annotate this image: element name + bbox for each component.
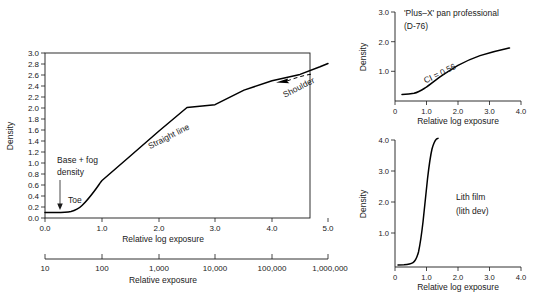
secondary-xtick-label: 100,000 <box>258 264 287 273</box>
plusx-ytick-label: 3.0 <box>378 8 389 17</box>
lith-xtick-label: 0 <box>393 273 397 282</box>
plusx-xtick-label: 4.0 <box>516 107 527 116</box>
lith-film-chart: 4.0 3.0 2.0 1.0 Density 0 1.0 2.0 3.0 4.… <box>358 136 526 292</box>
plusx-ytick-label: 2.0 <box>378 38 389 47</box>
main-ytick-label: 0.0 <box>28 214 40 223</box>
plusx-xtick-label: 2.0 <box>453 107 464 116</box>
main-ytick-label: 2.6 <box>28 71 40 80</box>
main-ytick-label: 2.8 <box>28 60 40 69</box>
plusx-y-axis-title: Density <box>358 42 368 71</box>
plusx-y-ticks <box>391 12 395 71</box>
main-xtick-label: 0.0 <box>39 224 51 233</box>
plusx-y-tick-labels: 3.0 2.0 1.0 <box>378 8 389 76</box>
main-x-axis-title: Relative log exposure <box>122 234 204 244</box>
lith-xtick-label: 3.0 <box>484 273 495 282</box>
lith-ytick-label: 3.0 <box>378 167 389 176</box>
lith-y-tick-labels: 4.0 3.0 2.0 1.0 <box>378 136 389 238</box>
main-ytick-label: 0.6 <box>28 181 40 190</box>
plusx-title: 'Plus–X' pan professional <box>404 8 499 18</box>
secondary-xtick-label: 10,000 <box>203 264 228 273</box>
annotation-shoulder: Shoulder <box>281 75 316 99</box>
lith-title: Lith film <box>456 192 485 202</box>
main-chart: 3.0 2.8 2.6 2.4 2.2 2.0 1.8 1.6 1.4 1.2 … <box>5 49 348 285</box>
secondary-xtick-label: 1,000 <box>149 264 170 273</box>
lith-ytick-label: 2.0 <box>378 198 389 207</box>
plusx-annotation-ci: CI = 0.56 <box>422 61 458 85</box>
main-ytick-label: 2.2 <box>28 93 40 102</box>
main-ytick-label: 0.2 <box>28 203 40 212</box>
main-xtick-label: 3.0 <box>209 224 221 233</box>
main-ytick-label: 0.8 <box>28 170 40 179</box>
plusx-xtick-label: 3.0 <box>484 107 495 116</box>
main-ytick-label: 1.6 <box>28 126 40 135</box>
secondary-xtick-label: 1,000,000 <box>312 264 348 273</box>
plusx-curve <box>402 48 510 95</box>
lith-xtick-label: 4.0 <box>516 273 527 282</box>
main-ytick-label: 3.0 <box>28 49 40 58</box>
plusx-xtick-label: 1.0 <box>421 107 432 116</box>
main-xtick-label: 1.0 <box>96 224 108 233</box>
main-x-ticks <box>45 218 328 222</box>
main-ytick-label: 2.0 <box>28 104 40 113</box>
lith-x-tick-labels: 0 1.0 2.0 3.0 4.0 <box>393 273 526 282</box>
lith-ytick-label: 1.0 <box>378 229 389 238</box>
main-ytick-label: 1.8 <box>28 115 40 124</box>
main-xtick-label: 4.0 <box>266 224 278 233</box>
lith-y-ticks <box>391 140 395 233</box>
main-ytick-label: 1.0 <box>28 159 40 168</box>
annotation-toe: Toe <box>68 195 82 205</box>
lith-x-ticks <box>395 267 521 271</box>
main-ytick-label: 1.2 <box>28 148 40 157</box>
main-xtick-label: 2.0 <box>153 224 165 233</box>
main-x-tick-labels: 0.0 1.0 2.0 3.0 4.0 5.0 <box>39 224 334 233</box>
plusx-x-tick-labels: 0 1.0 2.0 3.0 4.0 <box>393 107 526 116</box>
annotation-base-fog-density: density <box>57 167 85 177</box>
lith-y-axis-title: Density <box>358 189 368 218</box>
main-xtick-label: 5.0 <box>322 224 334 233</box>
lith-xtick-label: 1.0 <box>421 273 432 282</box>
secondary-xtick-label: 10 <box>41 264 50 273</box>
plusx-x-ticks <box>395 101 521 105</box>
figure-canvas: 3.0 2.8 2.6 2.4 2.2 2.0 1.8 1.6 1.4 1.2 … <box>0 0 541 298</box>
main-secondary-axis: 10 100 1,000 10,000 100,000 1,000,000 Re… <box>41 254 349 285</box>
lith-x-axis-title: Relative log exposure <box>417 282 499 292</box>
lith-ytick-label: 4.0 <box>378 136 389 145</box>
lith-subtitle: (lith dev) <box>456 206 489 216</box>
plus-x-chart: 3.0 2.0 1.0 Density 0 1.0 2.0 3.0 4.0 Re… <box>358 8 526 126</box>
main-y-tick-labels: 3.0 2.8 2.6 2.4 2.2 2.0 1.8 1.6 1.4 1.2 … <box>28 49 40 223</box>
plusx-x-axis-title: Relative log exposure <box>417 116 499 126</box>
characteristic-curves-figure: 3.0 2.8 2.6 2.4 2.2 2.0 1.8 1.6 1.4 1.2 … <box>0 0 541 298</box>
lith-curve <box>398 138 438 265</box>
main-ytick-label: 2.4 <box>28 82 40 91</box>
main-ytick-label: 0.4 <box>28 192 40 201</box>
secondary-xtick-label: 100 <box>95 264 109 273</box>
base-fog-arrowhead <box>57 204 63 211</box>
main-characteristic-curve <box>45 64 328 213</box>
plusx-subtitle: (D-76) <box>404 21 428 31</box>
main-y-ticks <box>41 53 45 218</box>
lith-xtick-label: 2.0 <box>453 273 464 282</box>
secondary-x-axis-title: Relative exposure <box>129 275 197 285</box>
main-y-axis-title: Density <box>5 121 15 150</box>
plusx-xtick-label: 0 <box>393 107 397 116</box>
plusx-ytick-label: 1.0 <box>378 67 389 76</box>
annotation-base-fog: Base + fog <box>57 155 98 165</box>
main-ytick-label: 1.4 <box>28 137 40 146</box>
